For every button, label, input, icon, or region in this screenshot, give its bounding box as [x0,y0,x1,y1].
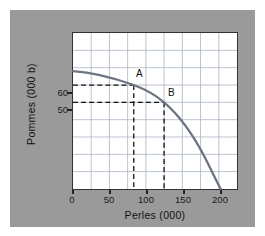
x-axis-tick-label-200: 200 [205,194,235,205]
x-axis-tick-label-100: 100 [131,194,161,205]
x-axis-tick-label-150: 150 [168,194,198,205]
y-axis-tick-label-60: 60 [24,88,68,98]
plot-area: A B [72,32,238,190]
x-axis-tick-label-0: 0 [57,194,87,205]
guide-lines-point-a [73,85,134,189]
chart-data-layer [73,33,237,189]
guide-lines-point-b [73,102,164,189]
point-label-b: B [168,88,175,98]
point-label-a: A [136,69,143,79]
x-axis-title: Perles (000) [72,209,238,221]
ppf-curve [73,71,221,189]
x-axis-tick-label-50: 50 [94,194,124,205]
chart-figure: Pommes (000 b) 60 50 [0,0,265,236]
chart-panel-background: Pommes (000 b) 60 50 [10,10,255,227]
x-axis-tick-labels: 0 50 100 150 200 [72,194,238,208]
y-axis-tick-label-50: 50 [24,105,68,115]
